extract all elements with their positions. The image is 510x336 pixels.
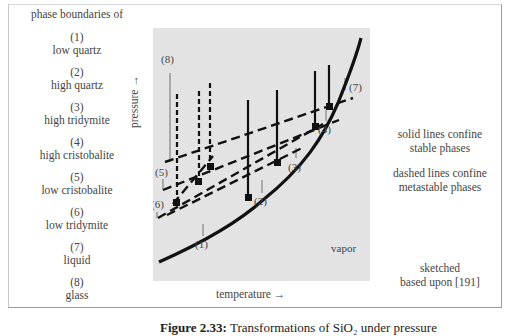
curve-label-4: (4): [318, 123, 331, 136]
phase-diagram-svg: (8) (5) (6) (1) (2) (3) (4) (7) vapor: [153, 28, 370, 281]
phase-diagram-plot: (8) (5) (6) (1) (2) (3) (4) (7) vapor: [153, 28, 370, 281]
legend-item-4: (4) high cristobalite: [8, 136, 146, 163]
legend-item-7: (7) liquid: [8, 241, 146, 268]
curve-label-7: (7): [349, 81, 362, 94]
y-axis-label: pressure →: [128, 78, 142, 128]
legend-item-2: (2) high quartz: [8, 66, 146, 93]
dashed-lines-note: dashed lines confine metastable phases: [378, 167, 502, 194]
curve-label-1: (1): [195, 238, 208, 251]
legend-item-3: (3) high tridymite: [8, 101, 146, 128]
legend-item-1: (1) low quartz: [8, 31, 146, 58]
caption-text: Transformations of SiO₂ under pressure: [230, 320, 437, 335]
legend-header: phase boundaries of: [8, 8, 146, 22]
legend-item-5: (5) low cristobalite: [8, 171, 146, 198]
figure-caption: Figure 2.33: Transformations of SiO₂ und…: [160, 320, 437, 336]
caption-prefix: Figure 2.33:: [160, 320, 227, 335]
solid-lines-note: solid lines confine stable phases: [378, 128, 502, 155]
curve-label-8: (8): [161, 53, 174, 66]
curve-label-6: (6): [153, 198, 164, 211]
source-note: sketched based upon [191]: [378, 262, 502, 289]
x-axis-label: temperature →: [216, 288, 285, 300]
vapor-region-label: vapor: [331, 242, 356, 254]
curve-label-3: (3): [288, 161, 301, 174]
curve-label-5: (5): [155, 166, 168, 179]
legend-item-8: (8) glass: [8, 276, 146, 303]
curve-label-2: (2): [254, 195, 267, 208]
legend-item-6: (6) low tridymite: [8, 206, 146, 233]
phase-legend: phase boundaries of (1) low quartz (2) h…: [8, 8, 146, 311]
